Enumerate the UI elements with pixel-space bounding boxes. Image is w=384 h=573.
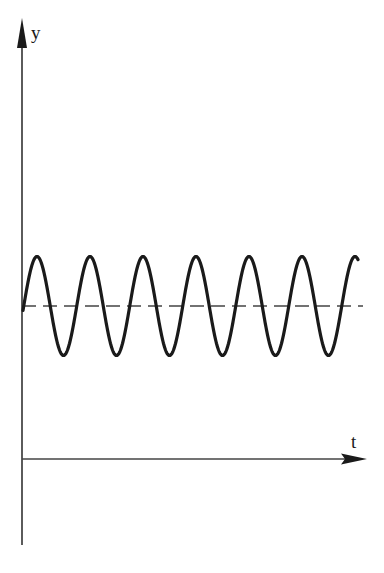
y-axis-arrow-icon [17, 18, 27, 48]
y-axis-label: y [31, 22, 41, 43]
oscillation-diagram: y t [0, 0, 384, 573]
t-axis-label: t [351, 431, 357, 452]
